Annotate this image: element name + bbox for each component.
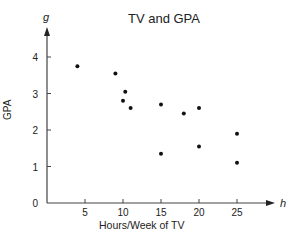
y-tick-label: 4 (32, 52, 38, 63)
data-point (182, 112, 186, 116)
data-point (121, 99, 125, 103)
y-tick-label: 1 (32, 162, 38, 173)
y-tick-label: 3 (32, 89, 38, 100)
data-point (75, 64, 79, 68)
x-tick-label: 25 (231, 207, 243, 218)
data-point (159, 152, 163, 156)
y-tick-label: 0 (32, 198, 38, 209)
y-axis-variable: g (43, 11, 50, 23)
data-point (197, 144, 201, 148)
data-point (129, 106, 133, 110)
x-tick-label: 20 (193, 207, 205, 218)
x-axis-arrow-icon (266, 200, 275, 206)
data-point (113, 71, 117, 75)
scatter-plot: hg51015202501234 (0, 0, 288, 240)
x-tick-label: 5 (82, 207, 88, 218)
data-point (197, 106, 201, 110)
y-axis-arrow-icon (44, 27, 50, 36)
data-point (123, 90, 127, 94)
data-point (159, 102, 163, 106)
y-tick-label: 2 (32, 125, 38, 136)
x-axis-variable: h (280, 197, 286, 209)
x-tick-label: 10 (117, 207, 129, 218)
x-tick-label: 15 (155, 207, 167, 218)
data-point (235, 161, 239, 165)
data-point (235, 132, 239, 136)
